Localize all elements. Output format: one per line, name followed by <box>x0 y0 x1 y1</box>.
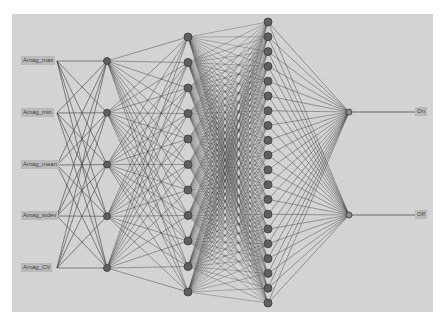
neuron-node <box>264 151 272 159</box>
neuron-node <box>264 18 272 26</box>
neuron-node <box>184 212 192 220</box>
neuron-node <box>184 135 192 143</box>
neuron-node <box>264 122 272 130</box>
neuron-node <box>184 59 192 67</box>
neuron-node <box>104 265 111 272</box>
neuron-node <box>264 181 272 189</box>
neuron-node <box>184 84 192 92</box>
neuron-node <box>264 62 272 70</box>
input-label-amag-min: Amag_min <box>21 108 54 117</box>
neuron-node <box>184 33 192 41</box>
neuron-node <box>264 225 272 233</box>
neuron-node <box>264 92 272 100</box>
neuron-node <box>264 240 272 248</box>
neuron-node <box>264 210 272 218</box>
neuron-node <box>264 33 272 41</box>
neuron-node <box>264 269 272 277</box>
input-label-amag-cv: Amag_CV <box>21 263 52 272</box>
neuron-node <box>264 136 272 144</box>
connections <box>57 22 415 303</box>
input-label-amag-max: Amag_max <box>21 56 55 65</box>
neuron-node <box>264 48 272 56</box>
neuron-node <box>264 195 272 203</box>
neuron-node <box>184 110 192 118</box>
input-label-amag-stdev: Amag_stdev <box>21 211 58 220</box>
neuron-node <box>264 77 272 85</box>
input-label-amag-mean: Amag_mean <box>21 160 59 169</box>
neuron-node <box>264 166 272 174</box>
neuron-node <box>104 58 111 65</box>
neuron-node <box>104 109 111 116</box>
neuron-node <box>346 109 352 115</box>
output-label-on: On <box>415 107 427 116</box>
neuron-node <box>184 263 192 271</box>
neuron-node <box>264 284 272 292</box>
neuron-node <box>346 212 352 218</box>
neuron-node <box>104 161 111 168</box>
neuron-node <box>264 255 272 263</box>
output-label-off: Off <box>415 210 427 219</box>
neuron-node <box>184 186 192 194</box>
neuron-node <box>184 288 192 296</box>
neuron-node <box>184 237 192 245</box>
neuron-node <box>184 161 192 169</box>
neuron-node <box>264 107 272 115</box>
neuron-node <box>264 299 272 307</box>
neural-network-graph <box>0 0 444 327</box>
neuron-node <box>104 213 111 220</box>
